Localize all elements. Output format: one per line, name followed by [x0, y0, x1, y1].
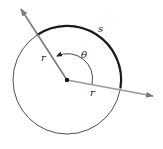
label-radius-right: r — [90, 87, 96, 98]
ray-left — [21, 9, 67, 80]
label-radius-left: r — [41, 52, 47, 63]
label-theta: θ — [81, 49, 87, 60]
ray-right — [67, 80, 153, 96]
angle-theta-arc — [57, 54, 93, 84]
arc-length-diagram: s θ r r — [0, 0, 163, 149]
center-point — [65, 78, 69, 82]
label-s: s — [98, 23, 103, 34]
